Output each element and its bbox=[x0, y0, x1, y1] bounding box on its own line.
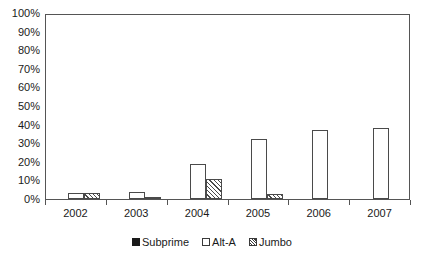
bar-alt-a-2005 bbox=[251, 139, 267, 199]
y-axis-tick-label: 40% bbox=[18, 120, 40, 131]
y-axis-tick-label: 10% bbox=[18, 175, 40, 186]
bar-alt-a-2002 bbox=[68, 193, 84, 199]
y-axis-tick-label: 30% bbox=[18, 138, 40, 149]
bar-group bbox=[289, 15, 350, 199]
y-axis-tick-label: 20% bbox=[18, 157, 40, 168]
plot-frame bbox=[45, 14, 410, 200]
open-square-icon bbox=[202, 238, 210, 246]
bar-jumbo-2003 bbox=[145, 197, 161, 199]
x-axis-tick-label: 2004 bbox=[167, 207, 228, 219]
bar-jumbo-2002 bbox=[84, 193, 100, 199]
x-axis-tick-mark bbox=[349, 200, 350, 205]
bar-alt-a-2003 bbox=[129, 192, 145, 199]
y-axis-tick-label: 70% bbox=[18, 64, 40, 75]
legend-item-label: Jumbo bbox=[259, 236, 292, 248]
x-axis-tick-label: 2002 bbox=[45, 207, 106, 219]
x-axis-tick-mark bbox=[410, 200, 411, 205]
legend-item-label: Alt-A bbox=[212, 236, 236, 248]
hatched-square-icon bbox=[249, 238, 257, 246]
legend-item-subprime[interactable]: Subprime bbox=[132, 236, 189, 248]
y-axis-tick-label: 0% bbox=[24, 194, 40, 205]
x-axis-tick-mark bbox=[288, 200, 289, 205]
x-axis-tick-mark bbox=[45, 200, 46, 205]
y-axis: 0%10%20%30%40%50%60%70%80%90%100% bbox=[0, 0, 43, 215]
y-axis-tick-label: 80% bbox=[18, 45, 40, 56]
bar-alt-a-2004 bbox=[190, 164, 206, 199]
bar-group bbox=[350, 15, 411, 199]
bar-alt-a-2007 bbox=[373, 128, 389, 199]
legend-item-jumbo[interactable]: Jumbo bbox=[249, 236, 292, 248]
x-axis-tick-mark bbox=[228, 200, 229, 205]
legend-item-label: Subprime bbox=[142, 236, 189, 248]
y-axis-tick-label: 50% bbox=[18, 101, 40, 112]
x-axis-tick-mark bbox=[167, 200, 168, 205]
bar-group bbox=[46, 15, 107, 199]
bar-chart: 0%10%20%30%40%50%60%70%80%90%100% 200220… bbox=[0, 0, 424, 261]
y-axis-tick-label: 60% bbox=[18, 82, 40, 93]
bar-jumbo-2005 bbox=[267, 194, 283, 199]
bar-jumbo-2004 bbox=[206, 179, 222, 199]
legend-item-alt-a[interactable]: Alt-A bbox=[202, 236, 236, 248]
x-axis-tick-label: 2005 bbox=[228, 207, 289, 219]
x-axis-tick-label: 2003 bbox=[106, 207, 167, 219]
solid-square-icon bbox=[132, 238, 140, 246]
y-axis-tick-label: 90% bbox=[18, 27, 40, 38]
bar-group bbox=[229, 15, 290, 199]
bar-alt-a-2006 bbox=[312, 130, 328, 199]
chart-legend: SubprimeAlt-AJumbo bbox=[0, 236, 424, 248]
bar-group bbox=[107, 15, 168, 199]
x-axis-tick-label: 2006 bbox=[288, 207, 349, 219]
x-axis-tick-mark bbox=[106, 200, 107, 205]
y-axis-tick-label: 100% bbox=[12, 8, 40, 19]
plot-area bbox=[46, 15, 409, 199]
x-axis-tick-label: 2007 bbox=[349, 207, 410, 219]
bar-group bbox=[168, 15, 229, 199]
